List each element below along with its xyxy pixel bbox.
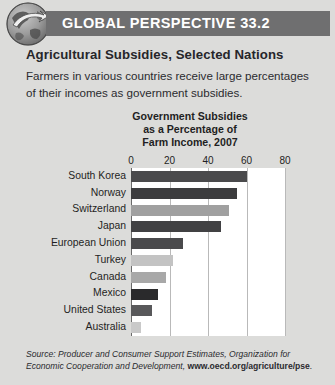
chart-gridline: [247, 168, 248, 336]
chart-bar: [131, 255, 173, 266]
chart-x-tick-label: 40: [196, 155, 220, 166]
chart-bar: [131, 289, 158, 300]
chart-bar: [131, 188, 237, 199]
chart-bar: [131, 238, 183, 249]
chart-bar-row: [131, 305, 152, 316]
chart-bar-row: [131, 188, 237, 199]
chart-category-label: United States: [21, 304, 126, 315]
source-suffix: .: [310, 361, 312, 371]
figure-description: Farmers in various countries receive lar…: [26, 68, 313, 101]
chart-category-label: Australia: [21, 321, 126, 332]
chart-bar-row: [131, 238, 183, 249]
section-header-band: GLOBAL PERSPECTIVE 33.2: [46, 11, 330, 36]
source-note: Source: Producer and Consumer Support Es…: [26, 348, 318, 372]
chart-gridline: [285, 168, 286, 336]
chart-title-line-3: Farm Income, 2007: [120, 136, 260, 149]
chart-bar: [131, 205, 229, 216]
chart-title-line-2: as a Percentage of: [120, 123, 260, 136]
chart-bar-row: [131, 322, 141, 333]
chart-bar-row: [131, 272, 166, 283]
figure-title: Agricultural Subsidies, Selected Nations: [26, 47, 316, 62]
chart-bar: [131, 221, 221, 232]
globe-arrow-icon: [4, 1, 52, 47]
chart-x-tick-label: 80: [273, 155, 297, 166]
chart-bar-row: [131, 255, 173, 266]
chart-title: Government Subsidies as a Percentage of …: [120, 110, 260, 148]
chart-category-label: European Union: [21, 237, 126, 248]
chart-category-label: Japan: [21, 220, 126, 231]
chart-x-tick-label: 20: [158, 155, 182, 166]
chart-category-label: Norway: [21, 187, 126, 198]
chart-bar: [131, 305, 152, 316]
chart-category-label: Canada: [21, 271, 126, 282]
chart-bar-row: [131, 289, 158, 300]
chart-x-tick-label: 0: [119, 155, 143, 166]
chart-title-line-1: Government Subsidies: [120, 110, 260, 123]
chart-bar: [131, 272, 166, 283]
chart-category-label: Switzerland: [21, 203, 126, 214]
chart-bar-row: [131, 221, 221, 232]
chart-bar: [131, 171, 247, 182]
source-url: www.oecd.org/agriculture/pse: [187, 361, 309, 371]
global-perspective-figure: GLOBAL PERSPECTIVE 33.2 Agricultural Sub…: [0, 0, 335, 385]
chart-x-tick-label: 60: [235, 155, 259, 166]
source-prefix: Source:: [26, 349, 56, 359]
chart-bar: [131, 322, 141, 333]
chart-bar-row: [131, 171, 247, 182]
chart-category-label: Mexico: [21, 287, 126, 298]
chart-category-label: South Korea: [21, 170, 126, 181]
chart-category-label: Turkey: [21, 254, 126, 265]
section-header-title: GLOBAL PERSPECTIVE 33.2: [62, 15, 270, 31]
chart-bar-row: [131, 205, 229, 216]
